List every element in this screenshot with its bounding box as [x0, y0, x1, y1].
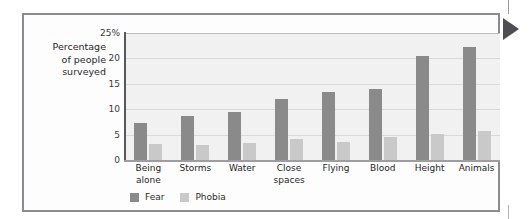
legend-swatch-phobia-icon: [180, 193, 189, 202]
bar-phobia-height: [431, 134, 444, 160]
x-tick-label: Being alone: [125, 163, 172, 186]
legend-label: Fear: [145, 192, 164, 202]
bar-phobia-being-alone: [149, 144, 162, 160]
x-tick-label: Blood: [359, 163, 406, 175]
x-tick-label: Animals: [453, 163, 500, 175]
bar-fear-being-alone: [134, 123, 147, 160]
y-tick-label: 20: [86, 53, 120, 63]
x-tick-label: Storms: [172, 163, 219, 175]
bar-fear-flying: [322, 92, 335, 160]
bar-phobia-close-spaces: [290, 139, 303, 160]
legend-item-phobia: Phobia: [180, 192, 225, 202]
bars-group: [125, 33, 500, 160]
bar-fear-height: [416, 56, 429, 160]
bar-fear-close-spaces: [275, 99, 288, 160]
bar-phobia-water: [243, 143, 256, 160]
x-axis-line: [124, 160, 500, 162]
bar-phobia-blood: [384, 137, 397, 160]
x-tick-label: Water: [219, 163, 266, 175]
page-canvas: Percentage of people surveyed 0510152025…: [0, 0, 531, 219]
y-tick-label: 25%: [86, 28, 120, 38]
bar-fear-storms: [181, 116, 194, 160]
legend-label: Phobia: [195, 192, 225, 202]
bar-phobia-flying: [337, 142, 350, 160]
bar-fear-blood: [369, 89, 382, 160]
legend-item-fear: Fear: [130, 192, 164, 202]
x-tick-label: Flying: [313, 163, 360, 175]
y-tick-label: 5: [86, 130, 120, 140]
bar-phobia-storms: [196, 145, 209, 160]
x-axis-labels: Being aloneStormsWaterClose spacesFlying…: [125, 163, 500, 191]
bar-fear-animals: [463, 47, 476, 160]
bar-fear-water: [228, 112, 241, 160]
bar-chart: Percentage of people surveyed 0510152025…: [0, 0, 531, 219]
chart-legend: FearPhobia: [130, 192, 226, 202]
legend-swatch-fear-icon: [130, 193, 139, 202]
y-tick-label: 15: [86, 79, 120, 89]
x-tick-label: Close spaces: [266, 163, 313, 186]
y-tick-label: 10: [86, 104, 120, 114]
y-axis-ticks: 0510152025%: [86, 0, 120, 219]
y-tick-label: 0: [86, 155, 120, 165]
bar-phobia-animals: [478, 131, 491, 160]
x-tick-label: Height: [406, 163, 453, 175]
